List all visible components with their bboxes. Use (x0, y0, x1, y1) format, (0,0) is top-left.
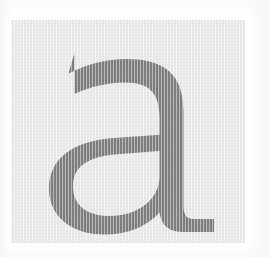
letter-a-outline (49, 53, 214, 235)
specimen-page: a (0, 0, 269, 257)
glyph-character-label: a (0, 0, 1, 1)
glyph-panel (11, 20, 245, 243)
letter-a-glyph (11, 20, 245, 243)
